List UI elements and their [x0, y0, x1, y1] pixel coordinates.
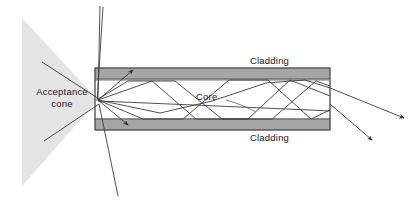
cladding-band-top [95, 68, 330, 79]
label-core: Core [196, 91, 217, 103]
exiting-rays [330, 88, 404, 140]
label-acceptance-line1: Acceptance [26, 86, 98, 98]
label-acceptance-cone: Acceptance cone [26, 86, 98, 110]
optical-fiber-diagram: Cladding Core Cladding Acceptance cone [0, 0, 413, 200]
label-cladding-top: Cladding [250, 55, 289, 67]
label-cladding-bottom: Cladding [250, 132, 289, 144]
cladding-band-bottom [95, 119, 330, 130]
label-acceptance-line2: cone [26, 98, 98, 110]
exiting-ray-lower [330, 104, 372, 140]
